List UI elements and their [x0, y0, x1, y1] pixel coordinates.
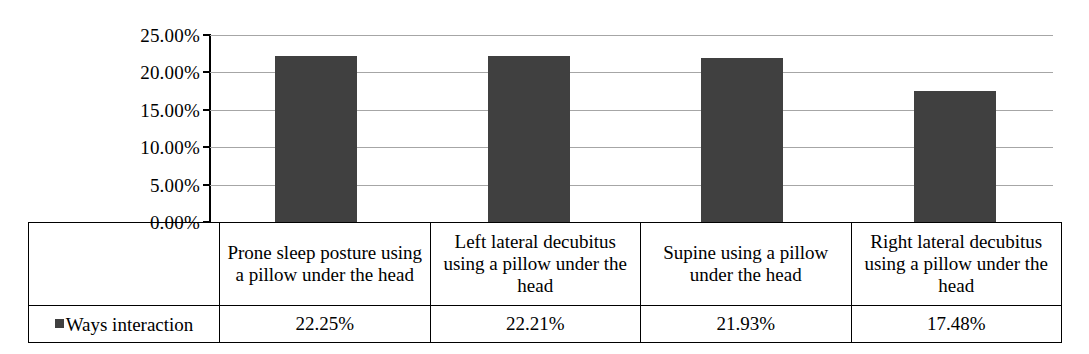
value-cell-1: 22.21% [430, 306, 641, 343]
y-axis-label-5: 5.00% [100, 176, 200, 195]
y-axis-tick-25 [203, 34, 210, 36]
value-cell-0: 22.25% [220, 306, 431, 343]
legend-spacer-cell [29, 223, 220, 306]
y-axis-tick-15 [203, 109, 210, 111]
y-axis-label-25: 25.00% [100, 26, 200, 45]
bar-left-lateral-decubitus[interactable] [488, 56, 570, 222]
table-row-categories: Prone sleep posture using a pillow under… [29, 223, 1062, 306]
legend-swatch-icon [55, 319, 64, 328]
y-axis-tick-5 [203, 184, 210, 186]
bar-prone-sleep-posture[interactable] [275, 56, 357, 222]
legend-label: Ways interaction [66, 314, 194, 336]
y-axis-label-20: 20.00% [100, 63, 200, 82]
legend-entry[interactable]: Ways interaction [29, 306, 220, 343]
category-cell-1: Left lateral decubitus using a pillow un… [430, 223, 641, 306]
value-cell-2: 21.93% [641, 306, 852, 343]
bar-right-lateral-decubitus[interactable] [914, 91, 996, 222]
table-row-values: Ways interaction 22.25% 22.21% 21.93% 17… [29, 306, 1062, 343]
y-axis-label-15: 15.00% [100, 101, 200, 120]
category-cell-3: Right lateral decubitus using a pillow u… [851, 223, 1062, 306]
category-cell-0: Prone sleep posture using a pillow under… [220, 223, 431, 306]
bar-supine[interactable] [701, 58, 783, 222]
plot-area [210, 35, 1053, 222]
y-axis-tick-10 [203, 146, 210, 148]
value-cell-3: 17.48% [851, 306, 1062, 343]
y-axis-tick-20 [203, 71, 210, 73]
data-table: Prone sleep posture using a pillow under… [28, 222, 1062, 343]
y-axis-label-10: 10.00% [100, 138, 200, 157]
gridline-25 [210, 35, 1053, 36]
bar-chart-with-data-table: 25.00% 20.00% 15.00% 10.00% 5.00% 0.00% … [0, 0, 1089, 354]
category-cell-2: Supine using a pillow under the head [641, 223, 852, 306]
